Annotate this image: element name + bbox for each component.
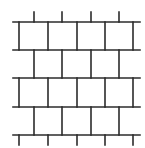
brick-grid-diagram: [0, 0, 145, 148]
